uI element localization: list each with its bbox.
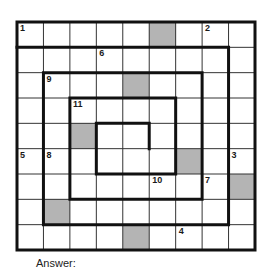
answer-label: Answer: [36, 257, 76, 269]
spiral-crossword-grid: 1269115831074 [17, 22, 255, 250]
grid-lines [17, 22, 255, 250]
